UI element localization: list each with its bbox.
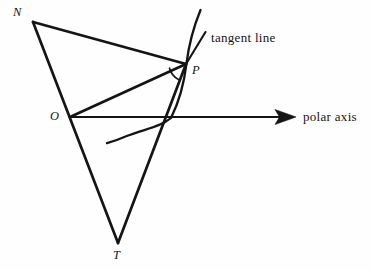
label-point-n: N	[13, 6, 21, 19]
label-polar-axis: polar axis	[303, 110, 357, 123]
figure-canvas: N O P T tangent line polar axis	[0, 0, 373, 270]
label-point-p: P	[192, 64, 200, 77]
geometry-diagram-svg	[0, 0, 373, 270]
label-point-t: T	[113, 249, 120, 262]
construction-lines-group	[33, 22, 206, 243]
label-tangent-line: tangent line	[211, 31, 276, 44]
polar-curve	[107, 10, 201, 143]
polar-axis-group	[70, 110, 296, 125]
segment-NP	[33, 22, 186, 64]
segment-NOT	[33, 22, 118, 243]
label-point-o: O	[50, 110, 59, 123]
